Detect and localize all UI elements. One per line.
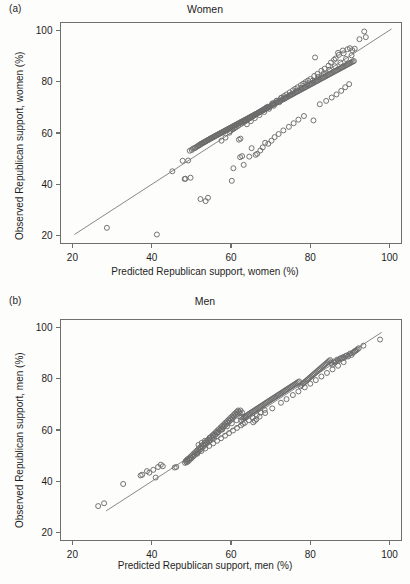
svg-text:80: 80 bbox=[305, 252, 317, 263]
data-point bbox=[154, 232, 159, 237]
data-point bbox=[263, 140, 268, 145]
data-point bbox=[229, 178, 234, 183]
svg-text:100: 100 bbox=[381, 549, 398, 560]
svg-text:60: 60 bbox=[41, 425, 53, 436]
data-point bbox=[104, 225, 109, 230]
svg-text:40: 40 bbox=[146, 252, 158, 263]
data-point bbox=[151, 467, 156, 472]
svg-text:60: 60 bbox=[225, 549, 237, 560]
svg-text:40: 40 bbox=[41, 179, 53, 190]
svg-text:60: 60 bbox=[41, 128, 53, 139]
data-point bbox=[313, 378, 318, 383]
y-axis-label-women: Observed Republican support, women (%) bbox=[14, 52, 25, 240]
svg-text:80: 80 bbox=[41, 373, 53, 384]
data-point bbox=[266, 141, 271, 146]
data-points-women bbox=[104, 29, 368, 237]
data-point bbox=[278, 400, 283, 405]
data-point bbox=[121, 481, 126, 486]
data-point bbox=[249, 146, 254, 151]
y-axis-ticks-men: 20406080100 bbox=[36, 322, 61, 539]
data-point bbox=[198, 197, 203, 202]
data-point bbox=[301, 114, 306, 119]
data-point bbox=[329, 95, 334, 100]
data-point bbox=[247, 154, 252, 159]
data-point bbox=[291, 121, 296, 126]
figure-container: (a) Women 20406080100 20406080100 Observ… bbox=[0, 0, 410, 584]
data-point bbox=[188, 175, 193, 180]
x-axis-ticks-women: 20406080100 bbox=[67, 244, 399, 263]
svg-text:20: 20 bbox=[67, 549, 79, 560]
data-point bbox=[311, 118, 316, 123]
data-point bbox=[296, 389, 301, 394]
y-axis-ticks-women: 20406080100 bbox=[36, 25, 61, 242]
data-point bbox=[296, 117, 301, 122]
panel-women: (a) Women 20406080100 20406080100 Observ… bbox=[0, 0, 410, 292]
svg-text:100: 100 bbox=[36, 322, 53, 333]
data-point bbox=[231, 166, 236, 171]
scatter-plot-women: 20406080100 20406080100 bbox=[0, 0, 410, 292]
data-point bbox=[270, 406, 275, 411]
y-axis-label-men: Observed Republican support, men (%) bbox=[14, 352, 25, 528]
svg-text:40: 40 bbox=[146, 549, 158, 560]
svg-text:40: 40 bbox=[41, 476, 53, 487]
svg-text:100: 100 bbox=[381, 252, 398, 263]
data-point bbox=[362, 29, 367, 34]
data-point bbox=[290, 393, 295, 398]
data-point bbox=[336, 363, 341, 368]
data-points-men bbox=[96, 337, 383, 509]
svg-text:80: 80 bbox=[41, 76, 53, 87]
panel-men: (b) Men 20406080100 20406080100 Observed… bbox=[0, 292, 410, 584]
data-point bbox=[284, 397, 289, 402]
data-point bbox=[378, 337, 383, 342]
svg-text:80: 80 bbox=[305, 549, 317, 560]
data-point bbox=[319, 374, 324, 379]
data-point bbox=[334, 92, 339, 97]
data-point bbox=[241, 162, 246, 167]
svg-text:20: 20 bbox=[41, 230, 53, 241]
svg-text:60: 60 bbox=[225, 252, 237, 263]
x-axis-label-men: Predicted Republican support, men (%) bbox=[0, 560, 410, 571]
svg-text:100: 100 bbox=[36, 25, 53, 36]
scatter-plot-men: 20406080100 20406080100 bbox=[0, 292, 410, 584]
data-point bbox=[180, 158, 185, 163]
data-point bbox=[317, 102, 322, 107]
data-point bbox=[347, 82, 352, 87]
data-point bbox=[102, 501, 107, 506]
data-point bbox=[238, 136, 243, 141]
data-point bbox=[357, 37, 362, 42]
data-point bbox=[313, 55, 318, 60]
x-axis-label-women: Predicted Republican support, women (%) bbox=[0, 266, 410, 277]
data-point bbox=[363, 35, 368, 40]
data-point bbox=[324, 370, 329, 375]
data-point bbox=[324, 98, 329, 103]
data-point bbox=[281, 128, 286, 133]
data-point bbox=[96, 504, 101, 509]
data-point bbox=[286, 124, 291, 129]
x-axis-ticks-men: 20406080100 bbox=[67, 541, 399, 560]
data-point bbox=[234, 418, 239, 423]
data-point bbox=[276, 132, 281, 137]
svg-text:20: 20 bbox=[67, 252, 79, 263]
data-point bbox=[308, 381, 313, 386]
svg-text:20: 20 bbox=[41, 527, 53, 538]
